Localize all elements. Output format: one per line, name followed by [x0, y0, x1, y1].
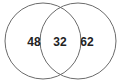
- left-only-value: 48: [27, 35, 41, 49]
- right-only-value: 62: [80, 35, 94, 49]
- venn-diagram: 48 32 62: [0, 0, 117, 83]
- left-circle: [5, 3, 81, 79]
- intersection-value: 32: [53, 35, 67, 49]
- right-circle: [40, 3, 116, 79]
